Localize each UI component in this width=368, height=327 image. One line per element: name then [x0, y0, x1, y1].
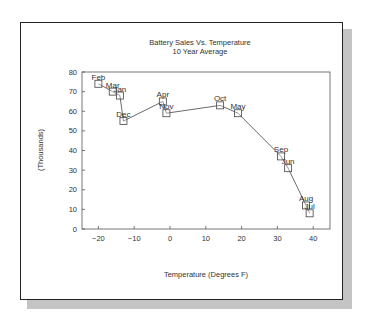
- point-label: Jun: [282, 157, 295, 166]
- x-axis-label: Temperature (Degrees F): [164, 270, 249, 279]
- point-label: Apr: [157, 90, 170, 99]
- x-tick-label: 30: [273, 234, 281, 243]
- y-tick-label: 10: [69, 205, 77, 214]
- point-label: Oct: [214, 94, 227, 103]
- y-tick-label: 80: [69, 68, 77, 77]
- y-tick-label: 50: [69, 126, 77, 135]
- point-label: Nov: [159, 102, 173, 111]
- y-tick-label: 30: [69, 166, 77, 175]
- x-tick-label: 40: [309, 234, 317, 243]
- point-label: Jul: [305, 202, 315, 211]
- y-tick-label: 70: [69, 87, 77, 96]
- y-axis-label: (Thousands): [36, 128, 45, 171]
- y-tick-label: 40: [69, 146, 77, 155]
- y-tick-label: 0: [73, 225, 77, 234]
- chart-title: Battery Sales Vs. Temperature: [149, 38, 251, 47]
- x-tick-label: 0: [168, 234, 172, 243]
- plot-area: −20−1001020304001020304050607080FebMarJa…: [69, 68, 330, 244]
- point-label: Feb: [92, 73, 106, 82]
- x-tick-label: 20: [237, 234, 245, 243]
- x-tick-label: −20: [92, 234, 105, 243]
- y-tick-label: 60: [69, 107, 77, 116]
- chart: Battery Sales Vs. Temperature 10 Year Av…: [0, 0, 368, 327]
- x-tick-label: 10: [202, 234, 210, 243]
- chart-subtitle: 10 Year Average: [173, 47, 228, 56]
- x-tick-label: −10: [128, 234, 141, 243]
- point-label: Jan: [113, 85, 126, 94]
- y-tick-label: 20: [69, 185, 77, 194]
- point-label: Dec: [116, 110, 130, 119]
- point-label: May: [230, 102, 245, 111]
- point-label: Sep: [274, 145, 289, 154]
